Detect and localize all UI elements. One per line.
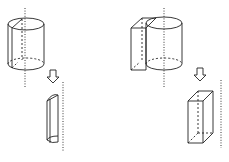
left-down-arrow-icon: [47, 70, 59, 83]
left-cylinder: [8, 18, 44, 70]
right-composite-solid: [131, 17, 182, 70]
diagram-canvas: [0, 0, 229, 162]
left-bottom-segment: [47, 95, 58, 143]
right-bottom-prism: [188, 91, 213, 143]
right-down-arrow-icon: [194, 68, 206, 81]
